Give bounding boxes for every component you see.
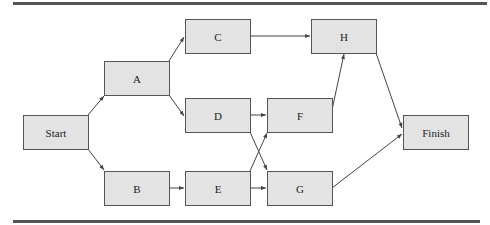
node-a: A [104, 61, 170, 96]
edge-f-h [332, 54, 344, 110]
node-b: B [104, 171, 170, 206]
node-start: Start [23, 115, 89, 150]
edge-start-a [88, 96, 104, 115]
node-label: C [214, 31, 221, 43]
node-label: D [214, 110, 222, 122]
node-g: G [267, 171, 333, 206]
edge-a-c [169, 37, 184, 61]
bottom-rule [13, 220, 480, 223]
node-label: Finish [422, 127, 450, 139]
node-label: Start [46, 127, 67, 139]
node-h: H [311, 19, 377, 54]
node-label: E [215, 183, 222, 195]
edge-g-finish [332, 134, 402, 188]
node-d: D [185, 98, 251, 133]
node-label: G [296, 183, 304, 195]
node-finish: Finish [403, 115, 469, 150]
edge-start-b [88, 149, 104, 170]
node-c: C [185, 19, 251, 54]
node-e: E [185, 171, 251, 206]
node-label: A [133, 73, 141, 85]
node-f: F [267, 98, 333, 133]
node-label: B [133, 183, 140, 195]
node-label: H [340, 31, 348, 43]
edge-a-d [169, 95, 184, 116]
node-label: F [297, 110, 303, 122]
edge-h-finish [376, 53, 402, 128]
